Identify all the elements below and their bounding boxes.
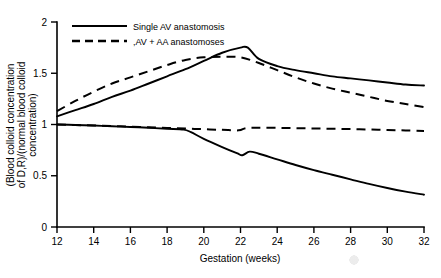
y-tick-label: 0	[41, 222, 47, 233]
x-tick-label: 20	[198, 236, 210, 247]
x-axis-title: Gestation (weeks)	[200, 253, 281, 264]
x-tick-label: 18	[162, 236, 174, 247]
line-chart: 00.511.52 1214161820222426283032 Gestati…	[0, 0, 441, 278]
series-line-1	[57, 57, 424, 111]
y-axis-title-line: concentration)	[27, 93, 38, 156]
chart-legend: Single AV anastomosis,AV + AA anastomose…	[72, 22, 225, 47]
y-tick-label: 1.5	[33, 68, 47, 79]
series-line-3	[57, 125, 424, 195]
legend-label-1: ,AV + AA anastomoses	[133, 37, 225, 47]
y-tick-label: 1	[41, 119, 47, 130]
x-axis-tick-labels: 1214161820222426283032	[51, 236, 430, 247]
x-tick-label: 24	[272, 236, 284, 247]
x-tick-label: 12	[51, 236, 63, 247]
y-axis-title-line: of D,R)/(normal blood colloid	[16, 62, 27, 189]
y-tick-label: 2	[41, 17, 47, 28]
x-tick-label: 28	[345, 236, 357, 247]
watermark-artifact	[345, 252, 363, 268]
y-tick-label: 0.5	[33, 170, 47, 181]
x-tick-label: 16	[125, 236, 137, 247]
series-line-0	[57, 47, 424, 117]
y-axis-title-line: (Blood colloid concentration	[5, 64, 16, 187]
data-series-group	[57, 47, 424, 195]
x-tick-label: 32	[418, 236, 430, 247]
chart-figure: 00.511.52 1214161820222426283032 Gestati…	[0, 0, 441, 278]
x-tick-label: 14	[88, 236, 100, 247]
x-axis-ticks	[57, 227, 424, 233]
x-tick-label: 30	[382, 236, 394, 247]
x-tick-label: 26	[308, 236, 320, 247]
legend-label-0: Single AV anastomosis	[133, 22, 225, 32]
x-tick-label: 22	[235, 236, 247, 247]
